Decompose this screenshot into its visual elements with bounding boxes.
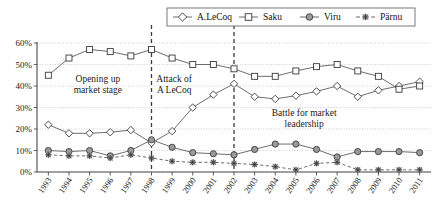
y-axis-tick-label: 50% bbox=[16, 60, 33, 70]
data-point-A.LeCoq-1993 bbox=[45, 121, 52, 128]
y-axis-tick-label: 30% bbox=[16, 103, 33, 113]
data-point-Saku-2005 bbox=[293, 68, 299, 74]
data-point-Pärnu-1997 bbox=[128, 152, 134, 158]
data-point-Saku-1998 bbox=[148, 46, 154, 52]
legend-label-Pärnu: Pärnu bbox=[380, 12, 402, 22]
data-point-Viru-2008 bbox=[355, 148, 361, 154]
data-point-Viru-2009 bbox=[375, 148, 381, 154]
data-point-Saku-2000 bbox=[190, 62, 196, 68]
x-axis-tick-label: 2008 bbox=[345, 176, 363, 196]
open-square-marker-icon bbox=[245, 14, 252, 21]
x-axis-tick-label: 1993 bbox=[36, 176, 54, 196]
chart-legend: A.LeCoqSakuViruPärnu bbox=[167, 8, 415, 26]
annotation-opening-up-line-2: market stage bbox=[74, 85, 122, 95]
x-axis-tick-label: 2006 bbox=[304, 176, 322, 196]
x-axis-tick-label: 2005 bbox=[283, 176, 301, 196]
data-point-Saku-1996 bbox=[107, 49, 113, 55]
data-point-Pärnu-2001 bbox=[210, 159, 216, 165]
data-point-Viru-2003 bbox=[252, 146, 258, 152]
y-axis-tick-label: 10% bbox=[16, 146, 33, 156]
data-point-A.LeCoq-2008 bbox=[354, 93, 361, 100]
data-point-Saku-1993 bbox=[45, 72, 51, 78]
x-axis-tick-label: 2003 bbox=[242, 176, 260, 196]
x-axis-tick-label: 2007 bbox=[325, 176, 343, 196]
legend-label-Saku: Saku bbox=[263, 12, 282, 22]
annotation-opening-up-line-1: Opening up bbox=[76, 74, 121, 84]
star-marker-icon bbox=[362, 14, 369, 21]
data-point-Saku-2010 bbox=[396, 86, 402, 92]
chart-canvas: 0%10%20%30%40%50%60%19931994199519961997… bbox=[0, 0, 437, 215]
data-point-Viru-2006 bbox=[313, 146, 319, 152]
x-axis-tick-label: 1994 bbox=[56, 175, 74, 195]
data-point-Viru-2001 bbox=[210, 151, 216, 157]
x-axis-tick-label: 2002 bbox=[221, 176, 239, 196]
x-axis-tick-label: 1996 bbox=[98, 176, 116, 196]
data-point-Viru-1999 bbox=[169, 144, 175, 150]
annotation-battle-leadership-line-2: leadership bbox=[285, 119, 324, 129]
data-point-Saku-2009 bbox=[375, 73, 381, 79]
legend-item-A.LeCoq[interactable]: A.LeCoq bbox=[173, 12, 232, 22]
data-point-Saku-2007 bbox=[334, 62, 340, 68]
data-point-Viru-2000 bbox=[190, 150, 196, 156]
annotation-attack-alecoq-line-1: Attack of bbox=[156, 74, 192, 84]
data-point-Pärnu-2002 bbox=[231, 160, 237, 166]
x-axis-tick-label: 2004 bbox=[263, 175, 281, 195]
x-axis-tick-label: 2010 bbox=[386, 176, 404, 196]
y-axis-tick-label: 0% bbox=[20, 167, 33, 177]
data-point-Pärnu-1993 bbox=[45, 152, 51, 158]
y-axis-tick-label: 40% bbox=[16, 81, 33, 91]
y-axis-tick-label: 60% bbox=[16, 38, 33, 48]
annotation-battle-leadership-line-1: Battle for market bbox=[272, 108, 337, 118]
data-point-A.LeCoq-2007 bbox=[333, 82, 340, 89]
data-point-Pärnu-2004 bbox=[272, 164, 278, 170]
x-axis-tick-label: 2000 bbox=[180, 176, 198, 196]
data-point-Pärnu-2010 bbox=[396, 167, 402, 173]
data-point-A.LeCoq-2009 bbox=[375, 87, 382, 94]
data-point-Viru-1995 bbox=[87, 147, 93, 153]
data-point-A.LeCoq-2006 bbox=[313, 88, 320, 95]
data-point-A.LeCoq-2005 bbox=[292, 92, 299, 99]
data-point-Viru-2011 bbox=[417, 150, 423, 156]
data-point-A.LeCoq-1996 bbox=[107, 129, 114, 136]
axes-group: 0%10%20%30%40%50%60%19931994199519961997… bbox=[16, 38, 432, 195]
data-point-Saku-2002 bbox=[231, 66, 237, 72]
data-point-Saku-2001 bbox=[210, 62, 216, 68]
data-point-Pärnu-1996 bbox=[107, 155, 113, 161]
data-point-Saku-1995 bbox=[87, 46, 93, 52]
data-point-Viru-1998 bbox=[148, 137, 154, 143]
data-point-A.LeCoq-1994 bbox=[65, 130, 72, 137]
data-point-Viru-2002 bbox=[231, 152, 237, 158]
data-point-Pärnu-2007 bbox=[334, 159, 340, 165]
data-point-Saku-2008 bbox=[355, 68, 361, 74]
annotations-group: Opening upmarket stageAttack ofA LeCoqBa… bbox=[74, 74, 337, 129]
data-point-Viru-2007 bbox=[334, 154, 340, 160]
x-axis-tick-label: 2011 bbox=[407, 176, 425, 195]
data-point-A.LeCoq-2001 bbox=[210, 91, 217, 98]
data-point-Pärnu-1995 bbox=[87, 153, 93, 159]
legend-label-Viru: Viru bbox=[324, 12, 341, 22]
x-axis-tick-label: 1998 bbox=[139, 176, 157, 196]
data-point-Pärnu-1999 bbox=[169, 158, 175, 164]
data-point-Viru-2010 bbox=[396, 148, 402, 154]
data-point-A.LeCoq-1997 bbox=[127, 126, 134, 133]
y-axis-tick-label: 20% bbox=[16, 124, 33, 134]
filled-circle-marker-icon bbox=[306, 14, 313, 21]
data-point-Pärnu-1994 bbox=[66, 153, 72, 159]
data-point-Pärnu-2011 bbox=[417, 167, 423, 173]
data-point-A.LeCoq-2003 bbox=[251, 93, 258, 100]
data-point-Pärnu-2009 bbox=[375, 167, 381, 173]
data-point-Pärnu-2006 bbox=[313, 160, 319, 166]
data-point-Saku-2011 bbox=[417, 83, 423, 89]
x-axis-tick-label: 1997 bbox=[118, 176, 136, 196]
data-point-Saku-2003 bbox=[252, 73, 258, 79]
x-axis-tick-label: 1999 bbox=[159, 176, 177, 196]
data-point-A.LeCoq-2004 bbox=[272, 95, 279, 102]
data-point-Saku-1997 bbox=[128, 53, 134, 59]
market-share-line-chart: 0%10%20%30%40%50%60%19931994199519961997… bbox=[0, 0, 437, 215]
data-point-Viru-2005 bbox=[293, 141, 299, 147]
data-point-Saku-1994 bbox=[66, 55, 72, 61]
data-point-Viru-2004 bbox=[272, 141, 278, 147]
x-axis-tick-label: 2009 bbox=[366, 176, 384, 196]
data-point-A.LeCoq-2002 bbox=[230, 80, 237, 87]
data-point-Pärnu-2008 bbox=[355, 167, 361, 173]
